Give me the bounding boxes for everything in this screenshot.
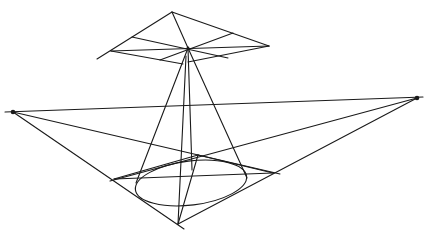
diamond-midline-2 [160, 33, 233, 60]
diamond-diagonal-vertical [172, 12, 188, 48]
diagram-svg [0, 0, 428, 238]
diamond-edge-top-right [172, 12, 269, 46]
diamond-center-point [187, 47, 190, 50]
right-vanishing-point [415, 96, 420, 101]
base-edge-top-right [198, 155, 273, 173]
left-vanishing-point [11, 110, 16, 115]
diamond-edge-top-left [97, 12, 172, 59]
right-vp-to-bottom-vertex [178, 98, 417, 224]
right-vp-to-left-vertex [110, 98, 417, 181]
cone-ray-center [188, 48, 192, 170]
diamond-edge-left-bottom [111, 51, 183, 64]
base-edge-left-top [114, 155, 198, 179]
perspective-diagram [0, 0, 428, 238]
left-vp-to-bottom-vertex [13, 112, 184, 229]
